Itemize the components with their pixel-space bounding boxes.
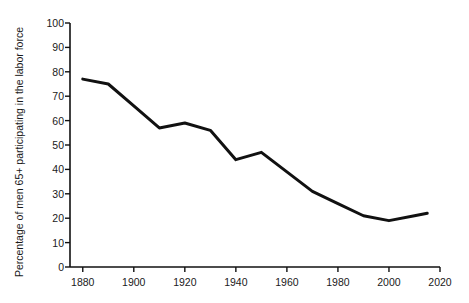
data-series-line xyxy=(83,79,427,221)
axes-group xyxy=(65,23,440,272)
chart-plot-area xyxy=(0,0,469,303)
chart-container: Percentage of men 65+ participating in t… xyxy=(0,0,469,303)
